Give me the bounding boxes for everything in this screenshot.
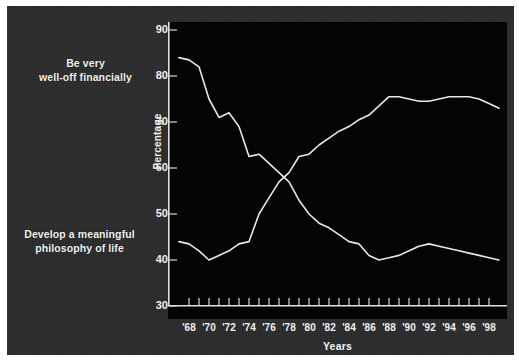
y-tick-label: 80: [142, 69, 168, 81]
series-annotation-philosophy-line1: Develop a meaningful: [7, 227, 152, 241]
x-tick-label: '68: [182, 322, 196, 333]
x-axis-tick-labels: '68'70'72'74'76'78'80'82'84'86'88'90'92'…: [168, 322, 507, 338]
x-tick-label: '80: [302, 322, 316, 333]
x-tick-label: '92: [422, 322, 436, 333]
x-tick-label: '90: [402, 322, 416, 333]
x-axis-title: Years: [168, 340, 507, 352]
x-tick-label: '82: [322, 322, 336, 333]
plot-area: [168, 22, 507, 319]
series-annotation-philosophy-line2: philosophy of life: [7, 241, 152, 255]
x-tick-label: '88: [382, 322, 396, 333]
x-tick-label: '84: [342, 322, 356, 333]
x-tick-label: '70: [202, 322, 216, 333]
x-tick-label: '98: [482, 322, 496, 333]
y-axis-tick-labels: 30405060708090: [138, 6, 168, 355]
x-tick-label: '74: [242, 322, 256, 333]
plot-svg: [168, 22, 507, 319]
x-tick-label: '94: [442, 322, 456, 333]
x-tick-label: '96: [462, 322, 476, 333]
chart-figure: Be very well-off financially Develop a m…: [0, 0, 519, 362]
y-tick-label: 90: [142, 23, 168, 35]
x-tick-label: '72: [222, 322, 236, 333]
y-axis-tick-marks: [169, 30, 177, 306]
x-tick-label: '78: [282, 322, 296, 333]
y-tick-label: 70: [142, 115, 168, 127]
axis-lines: [168, 22, 507, 306]
figure-card: Be very well-off financially Develop a m…: [7, 6, 514, 355]
x-tick-label: '86: [362, 322, 376, 333]
line-series-philosophy: [179, 58, 499, 260]
x-axis-tick-marks: [189, 298, 489, 306]
y-tick-label: 40: [142, 253, 168, 265]
y-tick-label: 50: [142, 207, 168, 219]
series-annotation-well-off: Be very well-off financially: [13, 56, 158, 84]
series-annotation-philosophy: Develop a meaningful philosophy of life: [7, 227, 152, 255]
series-annotation-well-off-line1: Be very: [13, 56, 158, 70]
y-tick-label: 30: [142, 299, 168, 311]
y-tick-label: 60: [142, 161, 168, 173]
x-tick-label: '76: [262, 322, 276, 333]
series-annotation-well-off-line2: well-off financially: [13, 70, 158, 84]
